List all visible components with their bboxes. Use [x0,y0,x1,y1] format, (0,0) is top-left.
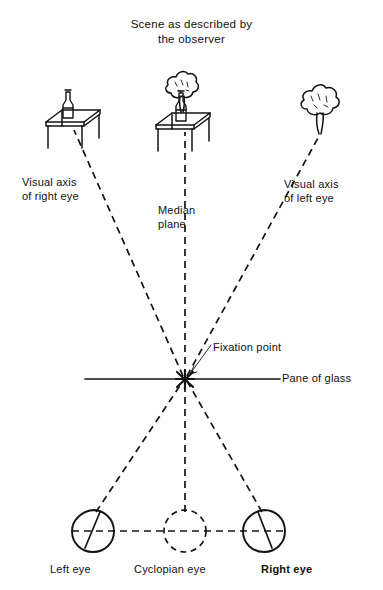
label-visual-axis-right-eye: Visual axis of right eye [22,176,79,203]
label-left-eye: Left eye [50,563,91,577]
visual-axis-right-eye-line [74,130,262,512]
label-right-eye: Right eye [261,563,312,577]
label-visual-axis-left-eye: Visual axis of left eye [284,178,339,205]
label-pane-of-glass: Pane of glass [282,372,351,386]
center-tree-object [166,72,199,112]
stereopsis-diagram: Scene as described by the observer [0,0,383,590]
right-tree-object [301,85,339,134]
left-eye-axis-line [85,512,100,548]
left-bottle-object [63,90,73,118]
label-median-plane: Median plane [158,204,195,231]
label-fixation-point: Fixation point [213,341,281,355]
right-eye-axis-line [258,512,272,548]
diagram-canvas [0,0,383,590]
fixation-point-leader-line [190,345,211,374]
label-cyclopian-eye: Cyclopian eye [134,563,206,577]
center-table-object [156,113,210,151]
